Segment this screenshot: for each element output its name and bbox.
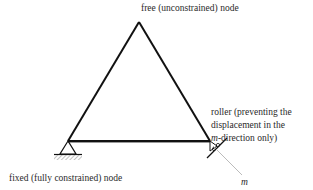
truss-members [68,22,210,143]
member-top-right [139,22,210,141]
roller-label-line3-rest: -direction only) [218,133,277,143]
m-direction-axis [213,146,242,175]
roller-label-line2: displacement in the [211,119,285,131]
member-left-top [68,22,139,141]
free-node-label: free (unconstrained) node [141,2,239,14]
truss-diagram [0,0,313,190]
roller-label-line1: roller (preventing the [211,106,292,118]
pin-support-icon [54,141,82,160]
roller-label-line3: m-direction only) [211,132,277,144]
m-direction-label: m [241,176,248,188]
fixed-node-label: fixed (fully constrained) node [9,172,122,184]
m-variable: m [211,133,218,143]
